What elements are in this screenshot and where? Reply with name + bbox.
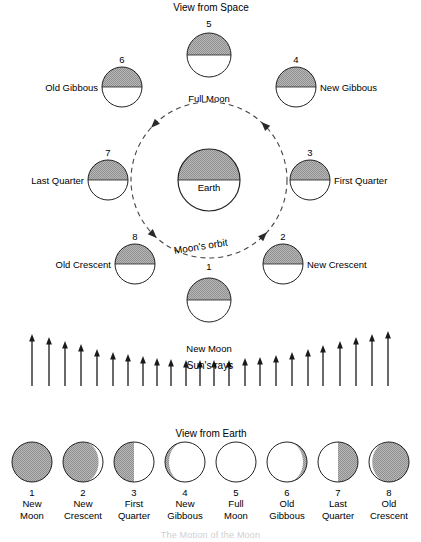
earth-phase-number-1: 1: [6, 487, 58, 498]
space-moon-label-6: Old Gibbous: [0, 82, 98, 93]
space-moon-number-3: 3: [307, 147, 312, 158]
phase-circle: [369, 442, 409, 482]
moon-phases-diagram: 1New Moon2New Crescent3First Quarter4New…: [0, 0, 421, 542]
earth-phase-name-line1-3: First: [108, 498, 160, 510]
space-moon-number-4: 4: [293, 54, 298, 65]
space-moon-6: [102, 67, 142, 107]
earth-phase-name-line1-4: New: [159, 498, 211, 510]
space-moon-label-2: New Crescent: [307, 259, 367, 270]
earth-phase-name-line1-6: Old: [261, 498, 313, 510]
phase-circle: [63, 442, 103, 482]
earth-phase-name-line2-4: Gibbous: [159, 510, 211, 522]
space-moon-number-7: 7: [105, 147, 110, 158]
space-moon-number-6: 6: [119, 54, 124, 65]
sun-rays-label: Sun's rays: [187, 360, 233, 371]
earth-phase-item-6: 6OldGibbous: [261, 487, 313, 521]
earth-phase-name-line2-3: Quarter: [108, 510, 160, 522]
earth-label: Earth: [198, 182, 221, 193]
phase-circle: [114, 442, 154, 482]
orbit-direction-arrow: [151, 119, 160, 128]
earth-phase-name-line2-5: Moon: [210, 510, 262, 522]
space-moon-4: [276, 67, 316, 107]
earth-phase-number-2: 2: [57, 487, 109, 498]
earth-phase-item-4: 4NewGibbous: [159, 487, 211, 521]
space-moon-number-2: 2: [280, 231, 285, 242]
earth-phase-name-line2-7: Quarter: [312, 510, 364, 522]
earth-phase-name-line1-5: Full: [210, 498, 262, 510]
space-moon-label-1: New Moon: [186, 343, 231, 354]
earth-phase-name-line2-1: Moon: [6, 510, 58, 522]
phase-circle: [318, 442, 358, 482]
earth-phase-number-6: 6: [261, 487, 313, 498]
space-moon-number-5: 5: [206, 18, 211, 29]
page-title-view-from-earth: View from Earth: [176, 428, 247, 439]
earth-phase-name-line2-6: Gibbous: [261, 510, 313, 522]
space-moon-number-1: 1: [206, 261, 211, 272]
space-moon-5: [187, 33, 231, 77]
space-moon-3: [290, 160, 330, 200]
phase-circle: [216, 442, 256, 482]
earth-view-phase-circles: [12, 442, 409, 482]
earth-phase-name-line2-2: Crescent: [57, 510, 109, 522]
earth-phase-item-7: 7LastQuarter: [312, 487, 364, 521]
figure-caption-partial: The Motion of the Moon: [0, 530, 421, 542]
sun-rays-arrows: [29, 331, 391, 386]
earth-phase-name-line1-8: Old: [363, 498, 415, 510]
earth-phase-item-2: 2NewCrescent: [57, 487, 109, 521]
space-moon-1: [187, 278, 231, 322]
space-moon-label-4: New Gibbous: [320, 82, 377, 93]
space-moon-7: [88, 160, 128, 200]
earth-phase-number-4: 4: [159, 487, 211, 498]
phase-circle: [12, 442, 52, 482]
earth-phase-number-3: 3: [108, 487, 160, 498]
phase-circle: [165, 442, 205, 482]
earth-phase-item-8: 8OldCrescent: [363, 487, 415, 521]
space-moon-label-8: Old Crescent: [0, 259, 111, 270]
earth-body: [178, 149, 240, 211]
earth-phase-number-8: 8: [363, 487, 415, 498]
earth-phase-item-1: 1NewMoon: [6, 487, 58, 521]
phase-circle: [267, 442, 307, 482]
space-moon-8: [115, 244, 155, 284]
space-moon-label-5: Full Moon: [188, 93, 230, 104]
space-moon-number-8: 8: [132, 231, 137, 242]
space-moon-label-7: Last Quarter: [0, 175, 84, 186]
earth-phase-name-line2-8: Crescent: [363, 510, 415, 522]
earth-phase-name-line1-7: Last: [312, 498, 364, 510]
earth-phase-number-5: 5: [210, 487, 262, 498]
earth-phase-name-line1-1: New: [6, 498, 58, 510]
page-title-view-from-space: View from Space: [173, 2, 248, 13]
earth-phase-item-5: 5FullMoon: [210, 487, 262, 521]
space-moon-2: [263, 244, 303, 284]
earth-phase-item-3: 3FirstQuarter: [108, 487, 160, 521]
earth-phase-name-line1-2: New: [57, 498, 109, 510]
space-moon-label-3: First Quarter: [334, 175, 387, 186]
earth-phase-number-7: 7: [312, 487, 364, 498]
